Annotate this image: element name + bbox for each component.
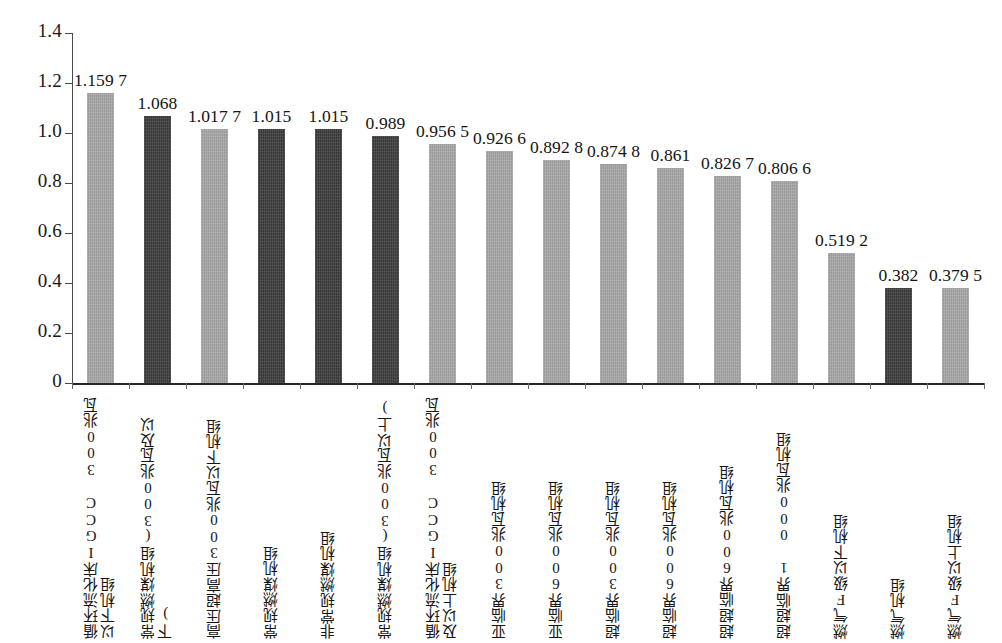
bar-slot: 0.892 8	[543, 160, 570, 383]
x-category-label: 超临界600兆瓦机组	[642, 389, 699, 639]
bar-slot: 0.861	[657, 168, 684, 383]
x-category-label: 常规燃煤机组(300兆瓦及以下)	[129, 389, 186, 639]
bar-slot: 0.519 2	[828, 253, 855, 383]
bar[interactable]: 0.519 2	[828, 253, 855, 383]
bar-value-label: 0.892 8	[530, 137, 583, 158]
y-tick-mark	[65, 33, 72, 34]
x-category-label: 非常规燃煤机组	[300, 389, 357, 639]
bar-value-label: 1.068	[138, 93, 178, 114]
bar[interactable]: 1.015	[258, 129, 285, 383]
y-tick-label: 0	[14, 370, 62, 392]
x-category-label: 高压超高压300兆瓦以下机组	[186, 389, 243, 639]
x-category-label-text: 超超临界1 000兆瓦机组	[776, 431, 794, 639]
bar-value-label: 0.989	[366, 113, 406, 134]
y-tick-label: 1.0	[14, 120, 62, 142]
x-category-label-text: 燃气F级以上机组	[947, 513, 965, 639]
y-tick-mark	[65, 83, 72, 84]
bar[interactable]: 0.926 6	[486, 151, 513, 383]
y-tick-label: 1.2	[14, 70, 62, 92]
x-category-label-text: 循环流化床IGCC 300兆瓦 及以上机组	[425, 397, 460, 639]
bar-slot: 0.956 5	[429, 144, 456, 383]
y-tick-mark	[65, 233, 72, 234]
y-tick-mark	[65, 283, 72, 284]
x-category-label: 燃气F级以上机组	[927, 389, 984, 639]
plot-area: 1.41.21.00.80.60.40.20 1.159 71.0681.017…	[72, 33, 984, 383]
x-category-label: 循环流化床IGCC 300兆瓦 以下机组	[72, 389, 129, 639]
y-tick-label: 0.2	[14, 320, 62, 342]
y-tick-label: 0.4	[14, 270, 62, 292]
bar-value-label: 0.861	[651, 145, 691, 166]
x-category-label: 常规燃煤机组(300兆瓦以上)	[357, 389, 414, 639]
bar-value-label: 1.015	[252, 106, 292, 127]
bar-value-label: 0.519 2	[815, 230, 868, 251]
bar[interactable]: 0.861	[657, 168, 684, 383]
x-category-label: 常规燃煤机组	[243, 389, 300, 639]
x-category-label-text: 亚临界300兆瓦机组	[491, 480, 509, 639]
x-category-label: 亚临界300兆瓦机组	[471, 389, 528, 639]
bar-value-label: 0.874 8	[587, 141, 640, 162]
bar-slot: 1.068	[144, 116, 171, 383]
bar[interactable]: 1.068	[144, 116, 171, 383]
bar[interactable]: 0.826 7	[714, 176, 741, 383]
bar-slot: 1.015	[315, 129, 342, 383]
bar-slot: 0.874 8	[600, 164, 627, 383]
y-tick-label: 0.8	[14, 170, 62, 192]
bar-slot: 0.826 7	[714, 176, 741, 383]
bar[interactable]: 0.874 8	[600, 164, 627, 383]
y-tick-label: 1.4	[14, 20, 62, 42]
bar[interactable]: 0.382	[885, 288, 912, 384]
bar-slot: 1.159 7	[87, 93, 114, 383]
x-category-label-text: 常规燃煤机组(300兆瓦及以下)	[140, 389, 175, 639]
bar[interactable]: 1.017 7	[201, 129, 228, 383]
bar-value-label: 1.017 7	[188, 106, 241, 127]
x-category-label-text: 高压超高压300兆瓦以下机组	[206, 418, 224, 639]
bar-slot: 0.989	[372, 136, 399, 383]
bar[interactable]: 1.015	[315, 129, 342, 383]
bar[interactable]: 0.956 5	[429, 144, 456, 383]
x-category-label-text: 超临界600兆瓦机组	[662, 480, 680, 639]
bar-slot: 0.379 5	[942, 288, 969, 383]
x-category-label-text: 常规燃煤机组(300兆瓦以上)	[377, 400, 395, 639]
x-category-label-text: 循环流化床IGCC 300兆瓦 以下机组	[83, 397, 118, 639]
bar-value-label: 0.382	[879, 265, 919, 286]
bar-value-label: 0.806 6	[758, 158, 811, 179]
x-category-label-text: 超临界300兆瓦机组	[605, 480, 623, 639]
bar[interactable]: 0.892 8	[543, 160, 570, 383]
x-category-label: 循环流化床IGCC 300兆瓦 及以上机组	[414, 389, 471, 639]
y-tick-mark	[65, 383, 72, 384]
x-category-label: 超超临界1 000兆瓦机组	[756, 389, 813, 639]
bar-value-label: 0.926 6	[473, 128, 526, 149]
bar-value-label: 1.159 7	[74, 70, 127, 91]
x-category-label-text: 亚临界600兆瓦机组	[548, 480, 566, 639]
bar-series: 1.159 71.0681.017 71.0151.0150.9890.956 …	[72, 33, 984, 383]
bar[interactable]: 0.806 6	[771, 181, 798, 383]
x-category-label: 燃气机组	[870, 389, 927, 639]
bar-slot: 1.017 7	[201, 129, 228, 383]
bar[interactable]: 1.159 7	[87, 93, 114, 383]
bar-value-label: 0.956 5	[416, 121, 469, 142]
bar-chart: 1.41.21.00.80.60.40.20 1.159 71.0681.017…	[0, 0, 1002, 643]
bar-value-label: 0.826 7	[701, 153, 754, 174]
y-tick-mark	[65, 333, 72, 334]
x-category-label-text: 燃气机组	[890, 577, 908, 639]
x-axis-category-labels: 循环流化床IGCC 300兆瓦 以下机组常规燃煤机组(300兆瓦及以下)高压超高…	[72, 389, 984, 641]
bar[interactable]: 0.989	[372, 136, 399, 383]
x-category-label: 燃气F级以下机组	[813, 389, 870, 639]
x-category-label-text: 燃气F级以下机组	[833, 513, 851, 639]
x-category-label-text: 非常规燃煤机组	[320, 530, 338, 639]
bar-slot: 0.926 6	[486, 151, 513, 383]
x-category-label-text: 超超临界600兆瓦机组	[719, 464, 737, 639]
bar-value-label: 0.379 5	[929, 265, 982, 286]
bar-slot: 0.382	[885, 288, 912, 384]
y-tick-mark	[65, 183, 72, 184]
bar[interactable]: 0.379 5	[942, 288, 969, 383]
x-category-label: 亚临界600兆瓦机组	[528, 389, 585, 639]
x-category-label: 超临界300兆瓦机组	[585, 389, 642, 639]
y-tick-label: 0.6	[14, 220, 62, 242]
x-category-label-text: 常规燃煤机组	[263, 545, 281, 639]
x-tick-mark	[984, 383, 985, 389]
bar-value-label: 1.015	[309, 106, 349, 127]
x-category-label: 超超临界600兆瓦机组	[699, 389, 756, 639]
bar-slot: 1.015	[258, 129, 285, 383]
y-tick-mark	[65, 133, 72, 134]
